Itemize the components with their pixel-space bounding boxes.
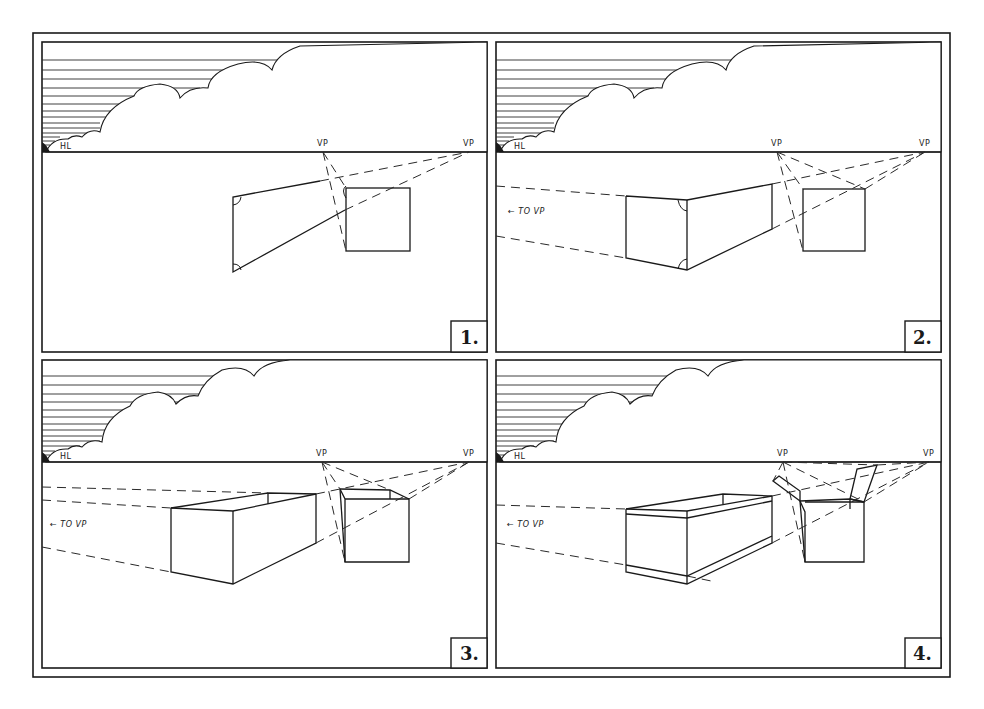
step-number: 1. — [460, 327, 479, 348]
hl-label: HL — [514, 142, 526, 151]
vp-left-label: VP — [771, 139, 782, 148]
step-number: 3. — [460, 643, 479, 664]
panel-3: HL VP VP ← TO VP 3. — [42, 360, 487, 668]
vp-right-label: VP — [463, 139, 474, 148]
vp-right-label: VP — [923, 449, 934, 458]
hl-label: HL — [514, 452, 526, 461]
hl-label: HL — [60, 452, 72, 461]
vp-right-label: VP — [919, 139, 930, 148]
vp-left-label: VP — [316, 449, 327, 458]
step-number: 4. — [913, 643, 932, 664]
panel-1: HL VP VP 1. — [42, 42, 487, 352]
vp-left-label: VP — [777, 449, 788, 458]
perspective-diagram: HL VP VP 1. — [0, 0, 984, 709]
to-vp-label: ← TO VP — [508, 207, 545, 216]
step-number: 2. — [913, 327, 932, 348]
panel-2: HL VP VP ← TO VP 2. — [496, 42, 941, 352]
to-vp-label: ← TO VP — [507, 520, 544, 529]
vp-right-label: VP — [463, 449, 474, 458]
vp-left-label: VP — [317, 139, 328, 148]
panel-4: HL VP VP ← TO VP 4. — [496, 360, 941, 668]
hl-label: HL — [60, 142, 72, 151]
to-vp-label: ← TO VP — [50, 520, 87, 529]
